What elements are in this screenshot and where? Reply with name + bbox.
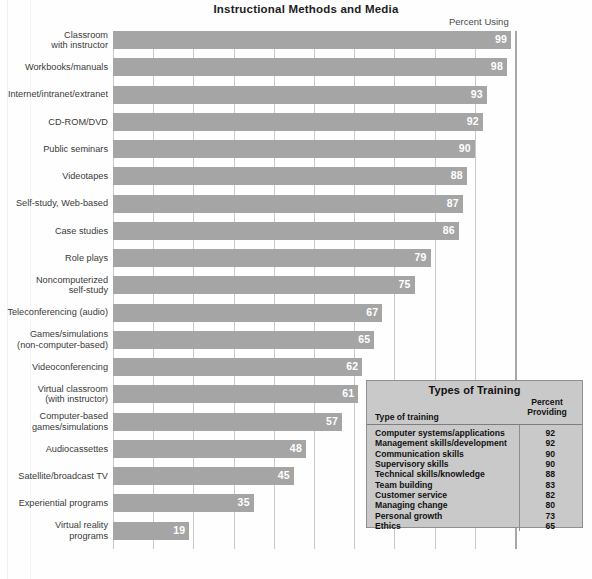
category-label: Videotapes <box>0 171 108 182</box>
chart-title: Instructional Methods and Media <box>0 3 592 15</box>
table-cell-percent: 80 <box>518 500 582 510</box>
bar-value-label: 65 <box>350 333 370 345</box>
chart-page: Instructional Methods and Media Percent … <box>0 0 592 579</box>
category-label: Teleconferencing (audio) <box>0 307 108 318</box>
bar-value-label: 75 <box>391 278 411 290</box>
bar <box>113 195 463 213</box>
table-row: Personal growth73 <box>367 510 582 520</box>
table-row: Customer service82 <box>367 490 582 500</box>
bar-value-label: 99 <box>487 33 507 45</box>
category-axis-labels: Classroomwith instructorWorkbooks/manual… <box>0 31 108 549</box>
table-row: Computer systems/applications92 <box>367 428 582 438</box>
bar-value-label: 61 <box>334 387 354 399</box>
bar <box>113 222 459 240</box>
bar-value-label: 92 <box>459 115 479 127</box>
value-axis-label: Percent Using <box>449 16 509 27</box>
bar <box>113 413 342 431</box>
table-cell-type: Computer systems/applications <box>367 428 518 438</box>
category-label: Videoconferencing <box>0 362 108 373</box>
table-cell-type: Personal growth <box>367 511 518 521</box>
bar-value-label: 57 <box>318 415 338 427</box>
bar-row: 79 <box>113 249 515 267</box>
bar-value-label: 48 <box>282 442 302 454</box>
table-cell-percent: 90 <box>518 459 582 469</box>
table-row: Management skills/development92 <box>367 438 582 448</box>
table-row: Ethics65 <box>367 521 582 531</box>
bar <box>113 58 507 76</box>
category-label: Virtual realityprograms <box>0 520 108 541</box>
bar-value-label: 67 <box>358 306 378 318</box>
category-label: Classroomwith instructor <box>0 30 108 51</box>
bar <box>113 31 511 49</box>
table-column-header-percent: PercentProviding <box>518 397 576 417</box>
bar-value-label: 45 <box>270 469 290 481</box>
bar-value-label: 86 <box>435 224 455 236</box>
bar <box>113 249 431 267</box>
bar-value-label: 88 <box>443 169 463 181</box>
bar <box>113 276 415 294</box>
table-row: Team building83 <box>367 479 582 489</box>
table-cell-percent: 92 <box>518 428 582 438</box>
category-label: Public seminars <box>0 144 108 155</box>
category-label: Role plays <box>0 253 108 264</box>
category-label: Self-study, Web-based <box>0 198 108 209</box>
bar-row: 62 <box>113 358 515 376</box>
table-cell-type: Ethics <box>367 521 518 531</box>
bar-row: 90 <box>113 140 515 158</box>
table-column-divider <box>519 425 520 531</box>
bar-row: 67 <box>113 304 515 322</box>
table-row: Communication skills90 <box>367 449 582 459</box>
bar <box>113 167 467 185</box>
bar <box>113 113 483 131</box>
table-cell-type: Managing change <box>367 500 518 510</box>
table-cell-percent: 73 <box>518 511 582 521</box>
table-row: Technical skills/knowledge88 <box>367 469 582 479</box>
bar-row: 93 <box>113 86 515 104</box>
bar-row: 86 <box>113 222 515 240</box>
table-cell-type: Management skills/development <box>367 438 518 448</box>
bar <box>113 86 487 104</box>
category-label: Satellite/broadcast TV <box>0 471 108 482</box>
table-cell-percent: 65 <box>518 521 582 531</box>
bar-row: 92 <box>113 113 515 131</box>
table-cell-type: Customer service <box>367 490 518 500</box>
category-label: Workbooks/manuals <box>0 62 108 73</box>
category-label: Computer-basedgames/simulations <box>0 411 108 432</box>
bar <box>113 385 358 403</box>
table-cell-percent: 83 <box>518 480 582 490</box>
table-cell-percent: 82 <box>518 490 582 500</box>
bar-row: 88 <box>113 167 515 185</box>
bar-row: 98 <box>113 58 515 76</box>
bar-value-label: 93 <box>463 88 483 100</box>
bar <box>113 331 374 349</box>
table-cell-percent: 88 <box>518 469 582 479</box>
table-body: Computer systems/applications92Managemen… <box>367 425 582 531</box>
bar-value-label: 79 <box>407 251 427 263</box>
types-of-training-table: Types of Training Type of training Perce… <box>366 380 583 528</box>
bar-row: 99 <box>113 31 515 49</box>
bar <box>113 304 382 322</box>
category-label: Internet/intranet/extranet <box>0 89 108 100</box>
table-column-header-type: Type of training <box>375 412 439 422</box>
table-cell-type: Technical skills/knowledge <box>367 469 518 479</box>
bar-value-label: 87 <box>439 197 459 209</box>
bar-row: 65 <box>113 331 515 349</box>
bar-value-label: 90 <box>451 142 471 154</box>
category-label: Experiential programs <box>0 498 108 509</box>
category-label: Games/simulations(non-computer-based) <box>0 329 108 350</box>
table-cell-percent: 90 <box>518 449 582 459</box>
table-cell-type: Supervisory skills <box>367 459 518 469</box>
bar-value-label: 35 <box>230 496 250 508</box>
table-cell-type: Communication skills <box>367 449 518 459</box>
bar-row: 87 <box>113 195 515 213</box>
bar <box>113 440 306 458</box>
bar <box>113 358 362 376</box>
table-cell-type: Team building <box>367 480 518 490</box>
bar-value-label: 19 <box>165 524 185 536</box>
category-label: Virtual classroom(with instructor) <box>0 384 108 405</box>
bar <box>113 467 294 485</box>
table-header-row: Type of training PercentProviding <box>367 396 582 424</box>
bar-row: 75 <box>113 276 515 294</box>
bar <box>113 140 475 158</box>
category-label: Noncomputerizedself-study <box>0 275 108 296</box>
